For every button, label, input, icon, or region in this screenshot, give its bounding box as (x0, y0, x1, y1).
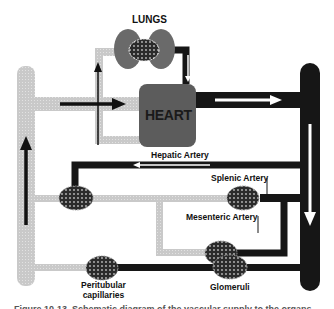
mesenteric-vein-vertical (156, 195, 163, 255)
mesenteric-artery-label: Mesenteric Artery (186, 212, 258, 222)
lung-capillary-bed (129, 39, 159, 61)
glomeruli-capillary-bed (213, 255, 247, 279)
hepatic-artery-label: Hepatic Artery (151, 150, 209, 160)
mesenteric-vein-bottom (156, 249, 211, 256)
spleen-capillary-bed (227, 186, 259, 210)
peritubular-label-line1: Peritubular (81, 280, 126, 290)
splenic-artery-label: Splenic Artery (211, 173, 268, 183)
pulmonary-artery-vertical (95, 48, 103, 144)
renal-artery (115, 264, 302, 271)
peritubular-capillary-bed (86, 256, 118, 280)
peritubular-capillaries-label: Peritubular capillaries (81, 280, 126, 300)
glomeruli-label: Glomeruli (210, 282, 250, 292)
lungs (114, 29, 175, 69)
figure-caption: Figure 10-13. Schematic diagram of the v… (14, 303, 334, 309)
lungs-label: LUNGS (132, 14, 167, 25)
peritubular-label-line2: capillaries (81, 290, 126, 300)
liver-capillary-bed (59, 186, 93, 210)
renal-vein (35, 264, 90, 271)
heart-label: HEART (145, 107, 192, 123)
